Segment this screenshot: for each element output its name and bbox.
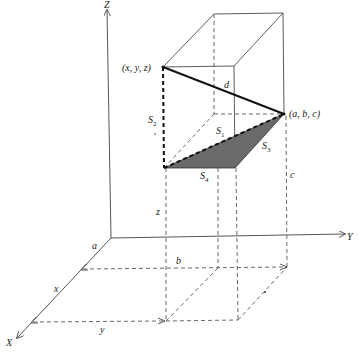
y-label: y (99, 324, 105, 335)
diagram-canvas: Z Y X (x, y, z) (0, 0, 359, 356)
z-axis-label: Z (104, 0, 110, 10)
s3-label: S3 (262, 140, 271, 154)
a-label: a (92, 240, 97, 251)
y-axis-label: Y (347, 231, 354, 242)
point-abc (283, 113, 286, 116)
s1-label: S1 (216, 125, 225, 139)
floor-projection (33, 264, 287, 324)
s4-label: S4 (200, 170, 209, 184)
axes: Z Y X (5, 0, 354, 348)
point-xyz (162, 66, 165, 69)
x-label: x (53, 283, 59, 294)
b-label: b (176, 255, 181, 266)
c-label: c (290, 169, 295, 180)
z-axis (107, 10, 111, 238)
d-label: d (224, 79, 230, 90)
point-xyz-label: (x, y, z) (122, 62, 152, 74)
x-axis-label: X (5, 337, 13, 348)
s2-label: S2 (148, 114, 157, 128)
y-axis (111, 234, 345, 238)
segment-d (163, 67, 284, 114)
segment-s2 (163, 67, 164, 168)
distance-3d-diagram: Z Y X (x, y, z) (0, 0, 359, 356)
point-abc-label: (a, b, c) (289, 108, 321, 120)
z-label: z (155, 206, 160, 217)
